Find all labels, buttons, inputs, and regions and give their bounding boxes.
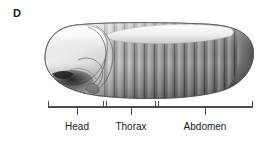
figure-panel: D xyxy=(0,0,279,144)
embryo-svg xyxy=(0,0,279,104)
region-label-abdomen: Abdomen xyxy=(184,122,227,132)
region-label-thorax: Thorax xyxy=(115,122,146,132)
body-shading-overlay xyxy=(40,18,260,104)
embryo-illustration xyxy=(0,0,279,104)
region-label-head: Head xyxy=(65,122,89,132)
